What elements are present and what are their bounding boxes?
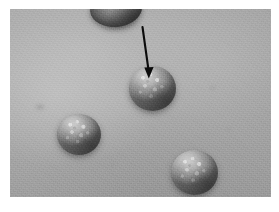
figure-caption: [10, 199, 271, 210]
clinical-photograph: [10, 9, 271, 197]
page-margin-left: [0, 0, 10, 212]
figure-root: [0, 0, 279, 212]
scanline-layer: [10, 9, 271, 197]
page-margin-top: [0, 0, 279, 9]
page-margin-right: [271, 0, 279, 212]
